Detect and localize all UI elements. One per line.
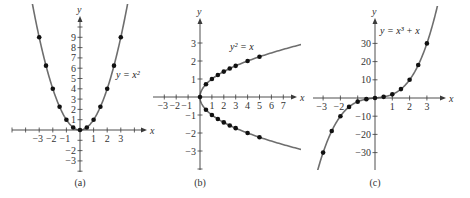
data-point	[78, 128, 83, 133]
panel-caption: (b)	[194, 177, 206, 189]
y-tick-label: −10	[355, 111, 371, 122]
data-point	[390, 92, 395, 97]
data-point	[416, 63, 421, 68]
x-tick-label: 2	[221, 100, 226, 111]
y-tick-label: 5	[71, 73, 76, 84]
data-point	[233, 126, 238, 131]
data-point	[112, 63, 117, 68]
x-tick-label: −3	[316, 101, 327, 112]
data-point	[216, 117, 221, 122]
x-tick-label: −2	[46, 133, 57, 144]
chart-panel-a-parabola: xy−3−2−1123−3−2123456789y = x²(a)	[12, 0, 155, 189]
data-point	[37, 35, 42, 40]
data-point	[355, 99, 360, 104]
x-tick-label: 1	[91, 133, 96, 144]
y-tick-label: −2	[65, 145, 76, 156]
equation-label: y = x²	[115, 69, 141, 80]
x-tick-label: 4	[245, 100, 250, 111]
data-point	[227, 123, 232, 128]
data-point	[198, 95, 203, 100]
y-tick-label: 1	[71, 114, 76, 125]
x-tick-label: −3	[157, 100, 168, 111]
data-point	[44, 63, 49, 68]
y-axis-label: y	[196, 6, 202, 17]
equation-label: y = x³ + x	[379, 25, 420, 36]
x-tick-label: 1	[390, 101, 395, 112]
chart-panel-b-sideways-parabola: xy−3−2−11234567−3−2−1123y² = x(b)	[153, 6, 307, 189]
panel-caption: (a)	[74, 177, 85, 189]
data-point	[105, 87, 110, 92]
data-point	[210, 77, 215, 82]
x-tick-label: 3	[424, 101, 429, 112]
data-point	[222, 69, 227, 74]
x-axis-arrow-icon	[291, 95, 297, 100]
data-point	[245, 59, 250, 64]
data-point	[227, 66, 232, 71]
data-point	[381, 95, 386, 100]
y-tick-label: 9	[71, 32, 76, 43]
y-tick-label: −1	[185, 110, 196, 121]
x-tick-label: 2	[407, 101, 412, 112]
y-tick-label: 30	[361, 38, 371, 49]
data-point	[91, 117, 96, 122]
y-tick-label: 4	[71, 83, 76, 94]
y-tick-label: 1	[191, 74, 196, 85]
y-tick-label: −2	[185, 128, 196, 139]
figure-three-graphs: xy−3−2−1123−3−2123456789y = x²(a) xy−3−2…	[0, 0, 470, 198]
y-tick-label: 10	[361, 74, 371, 85]
x-tick-label: 1	[209, 100, 214, 111]
data-point	[51, 87, 56, 92]
data-point	[222, 120, 227, 125]
x-tick-label: −1	[60, 133, 71, 144]
x-tick-label: 3	[118, 133, 123, 144]
data-point	[233, 64, 238, 69]
data-point	[329, 129, 334, 134]
x-axis-arrow-icon	[440, 96, 446, 101]
data-point	[338, 114, 343, 119]
y-tick-label: 2	[71, 104, 76, 115]
data-point	[57, 105, 62, 110]
y-axis-label: y	[371, 6, 377, 17]
data-point	[373, 96, 378, 101]
data-point	[98, 105, 103, 110]
equation-label: y² = x	[229, 41, 254, 52]
x-tick-label: −2	[334, 101, 345, 112]
data-point	[85, 125, 90, 130]
x-axis-label: x	[448, 93, 454, 104]
x-tick-label: 3	[233, 100, 238, 111]
y-axis-arrow-icon	[198, 18, 203, 24]
y-tick-label: −3	[185, 146, 196, 157]
y-tick-label: 3	[191, 38, 196, 49]
panel-caption: (c)	[369, 177, 380, 189]
y-tick-label: 3	[71, 94, 76, 105]
x-tick-label: 6	[269, 100, 274, 111]
data-point	[210, 113, 215, 118]
data-point	[257, 135, 262, 140]
y-tick-label: 7	[71, 52, 76, 63]
y-tick-label: 6	[71, 63, 76, 74]
x-tick-label: 2	[105, 133, 110, 144]
y-tick-label: −30	[355, 147, 371, 158]
data-point	[245, 131, 250, 136]
y-tick-label: 8	[71, 42, 76, 53]
data-point	[407, 78, 412, 83]
x-tick-label: −3	[32, 133, 43, 144]
chart-panel-c-cubic: xy−3−2123−30−20−10102030y = x³ + x(c)	[313, 0, 454, 189]
x-axis-label: x	[299, 92, 305, 103]
x-tick-label: 7	[281, 100, 286, 111]
data-point	[347, 105, 352, 110]
data-point	[71, 125, 76, 130]
y-axis-label: y	[76, 4, 82, 15]
data-point	[321, 150, 326, 155]
y-tick-label: −20	[355, 129, 371, 140]
y-axis-arrow-icon	[78, 16, 83, 22]
data-point	[64, 117, 69, 122]
data-point	[364, 97, 369, 102]
data-point	[204, 82, 209, 87]
y-axis-arrow-icon	[373, 18, 378, 24]
data-point	[425, 41, 430, 46]
data-point	[204, 107, 209, 112]
x-tick-label: 5	[257, 100, 262, 111]
x-tick-label: −2	[169, 100, 180, 111]
data-point	[216, 73, 221, 78]
